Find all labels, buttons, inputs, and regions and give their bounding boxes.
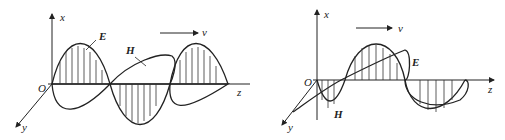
e-field-wave — [317, 44, 465, 109]
x-axis-label: x — [59, 11, 65, 23]
h-field-label: H — [333, 108, 343, 120]
left-diagram: x y z O E H v — [16, 11, 250, 133]
y-axis-label: y — [21, 121, 27, 133]
h-field-wave — [293, 50, 468, 112]
e-field-label: E — [411, 56, 419, 68]
z-axis-label: z — [236, 86, 242, 98]
right-diagram: x y z O E H v — [282, 8, 494, 133]
velocity-label: v — [202, 26, 207, 38]
h-field-label: H — [125, 44, 135, 56]
z-axis-label: z — [487, 83, 493, 95]
y-axis-label: y — [287, 121, 293, 133]
em-wave-figure: x y z O E H v x y z O E H v — [0, 0, 505, 140]
e-field-vectors — [322, 45, 452, 112]
velocity-label: v — [398, 22, 403, 34]
e-field-label: E — [98, 30, 106, 42]
x-axis-label: x — [323, 8, 329, 20]
origin-label: O — [304, 76, 312, 88]
origin-label: O — [38, 82, 46, 94]
